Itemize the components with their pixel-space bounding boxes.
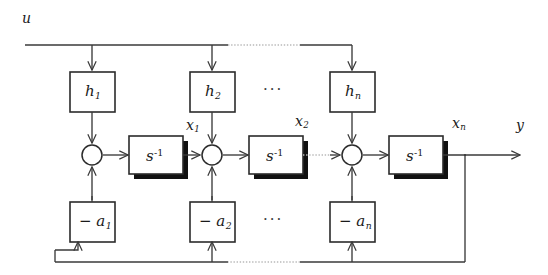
integrator-n-label: s-1 <box>406 148 423 164</box>
gain-h1-sub: 1 <box>95 90 101 101</box>
state-label-x2: x2 <box>295 114 309 130</box>
state-label-xn-sub: n <box>460 122 466 132</box>
state-label-xn-base: x <box>452 115 460 131</box>
integrator-2-base: s <box>266 147 274 165</box>
feedback-a1-sub: 1 <box>105 220 111 231</box>
gain-block-hn-label: hn <box>345 84 361 100</box>
wire-bus-to-a1 <box>55 242 78 250</box>
feedback-an-base: − a <box>339 212 365 230</box>
diagram-canvas <box>0 0 548 275</box>
gain-h2-sub: 2 <box>215 90 221 101</box>
integrator-n-base: s <box>406 147 414 165</box>
ellipsis-feedback-row: ··· <box>263 210 283 228</box>
feedback-block-a2-label: − a2 <box>199 214 232 230</box>
ellipsis-gain-row: ··· <box>263 80 283 98</box>
gain-block-h2-label: h2 <box>205 84 221 100</box>
feedback-a1-base: − a <box>79 212 105 230</box>
state-label-x1-sub: 1 <box>194 124 200 134</box>
feedback-block-an-label: − an <box>339 214 372 230</box>
integrator-1-label: s-1 <box>146 148 163 164</box>
summing-junction-1 <box>82 145 102 165</box>
integrator-n-sup: -1 <box>414 147 424 158</box>
feedback-a2-base: − a <box>199 212 225 230</box>
gain-hn-sub: n <box>355 90 361 101</box>
feedback-an-sub: n <box>365 220 371 231</box>
gain-hn-base: h <box>345 82 355 100</box>
gain-block-h1-label: h1 <box>85 84 101 100</box>
summing-junction-n <box>342 145 362 165</box>
state-label-xn: xn <box>452 116 466 132</box>
gain-h2-base: h <box>205 82 215 100</box>
state-label-x1-base: x <box>186 117 194 133</box>
state-label-x1: x1 <box>186 118 200 134</box>
feedback-a2-sub: 2 <box>225 220 231 231</box>
block-diagram-figure: u y x1 x2 xn h1 h2 hn s-1 s-1 s-1 − a1 −… <box>0 0 548 275</box>
state-label-x2-sub: 2 <box>303 120 309 130</box>
feedback-block-a1-label: − a1 <box>79 214 112 230</box>
input-signal-label: u <box>22 11 31 25</box>
integrator-1-base: s <box>146 147 154 165</box>
gain-h1-base: h <box>85 82 95 100</box>
integrator-2-sup: -1 <box>274 147 284 158</box>
summing-junction-2 <box>202 145 222 165</box>
integrator-2-label: s-1 <box>266 148 283 164</box>
output-signal-label: y <box>516 118 524 132</box>
integrator-1-sup: -1 <box>154 147 164 158</box>
state-label-x2-base: x <box>295 113 303 129</box>
